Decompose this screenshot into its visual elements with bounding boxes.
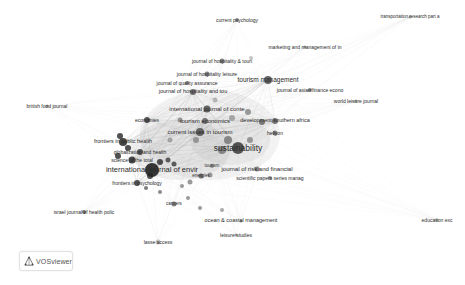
node-label[interactable]: british food journal — [27, 104, 68, 109]
node-label[interactable]: journal of hospitality & touri — [192, 59, 252, 64]
node-label[interactable]: sustainability — [214, 144, 263, 153]
node-label[interactable]: transportation research part a — [380, 15, 439, 20]
node-label[interactable]: energies — [192, 174, 209, 179]
node-label[interactable]: journal of asian finance econo — [277, 88, 343, 93]
vosviewer-logo-text: VOSviewer — [36, 258, 72, 265]
node-label[interactable]: international journal of conte — [169, 106, 244, 112]
node-label[interactable]: journal of risk and financial — [221, 166, 292, 172]
node-label[interactable]: international journal of envir — [106, 166, 198, 174]
node-label[interactable]: israel journal of health polic — [54, 210, 115, 215]
node-label[interactable]: tourism — [205, 164, 220, 169]
node-label[interactable]: frontiers in public health — [94, 139, 152, 145]
node-label[interactable]: science of the total — [111, 158, 153, 163]
node-label[interactable]: journal of quality assurance — [157, 81, 218, 86]
node-label[interactable]: cancers — [166, 202, 182, 207]
node-label[interactable]: marketing and management of in — [268, 45, 341, 50]
node-label[interactable]: economies — [135, 118, 159, 123]
node-label[interactable]: world leisure journal — [334, 99, 378, 104]
vosviewer-logo-icon — [24, 255, 34, 267]
node-label[interactable]: journal of hospitality and tou — [159, 89, 228, 95]
node-label[interactable]: journal of hospitality leisure — [177, 72, 237, 77]
node-label[interactable]: leisure studies — [220, 233, 252, 238]
node-label[interactable]: heliyon — [267, 131, 283, 136]
node-label[interactable]: ocean & coastal management — [205, 218, 278, 224]
node-label[interactable]: tourism management — [237, 77, 298, 84]
node-label[interactable]: globalization and health — [114, 150, 167, 155]
node-label[interactable]: scientific papers series manag — [236, 176, 303, 181]
node-label[interactable]: current psychology — [216, 18, 258, 23]
vosviewer-logo[interactable]: VOSviewer — [19, 251, 73, 271]
node-label[interactable]: tourism economics — [180, 118, 230, 124]
node-label[interactable]: current issues in tourism — [167, 129, 232, 135]
node-label[interactable]: development southern africa — [240, 118, 309, 124]
node-label[interactable]: lasse access — [144, 240, 173, 245]
node-label[interactable]: frontiers in psychology — [112, 181, 162, 186]
node-label[interactable]: education exc — [422, 218, 453, 223]
